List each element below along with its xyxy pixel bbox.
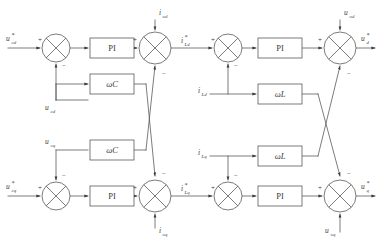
sign-sum8-plus: + bbox=[318, 184, 322, 192]
sign-sum2-plus: + bbox=[133, 36, 137, 44]
sign-sum5-plus: + bbox=[211, 36, 215, 44]
signal-u-od-base: u bbox=[344, 8, 348, 17]
signal-uout-d-base: u bbox=[361, 34, 365, 43]
sign-sum6-plus: + bbox=[318, 36, 322, 44]
wire-wl2-cross-to-sum6 bbox=[302, 66, 340, 156]
signal-vfb-q-sub: cq bbox=[51, 143, 56, 148]
signal-vref-q-star: * bbox=[12, 179, 15, 186]
signal-label-i-Ld: i Ld bbox=[198, 86, 207, 97]
signal-label-i-oq: i oq bbox=[159, 226, 168, 237]
block-pi-3[interactable]: PI bbox=[258, 38, 302, 58]
sign-sum7-plus: + bbox=[211, 184, 215, 192]
wire-vfbq-to-sum3 bbox=[56, 150, 88, 180]
signal-u-oq-base: u bbox=[325, 226, 329, 235]
summing-junction-1[interactable] bbox=[42, 34, 70, 62]
signal-vfb-d-sub: cd bbox=[51, 109, 56, 114]
signal-label-vfb-d: u cd bbox=[45, 103, 56, 114]
signal-uout-d-star: * bbox=[367, 31, 370, 38]
wire-wc2-cross-to-sum2 bbox=[134, 66, 155, 150]
wire-iLd-to-sum5 bbox=[210, 64, 256, 94]
signal-uout-q-sub: q bbox=[367, 188, 370, 193]
block-omega-c-1-label: ωC bbox=[106, 79, 118, 89]
signal-vfb-q-base: u bbox=[45, 137, 49, 146]
signal-u-od-sub: od bbox=[350, 14, 355, 19]
signal-uout-d-sub: d bbox=[367, 40, 370, 45]
signal-iref-Ld-sub: Ld bbox=[184, 42, 191, 47]
block-omega-l-2-label: ωL bbox=[275, 151, 286, 161]
diagram-canvas: PI ωC ωC PI PI ωL ωL PI bbox=[0, 0, 382, 249]
block-omega-c-1[interactable]: ωC bbox=[90, 74, 134, 94]
signal-uout-q-base: u bbox=[361, 182, 365, 191]
sign-sum1-minus: − bbox=[62, 62, 66, 70]
summing-junction-3[interactable] bbox=[42, 182, 70, 210]
signal-i-od-base: i bbox=[159, 8, 161, 17]
sign-sum1-plus: + bbox=[38, 36, 42, 44]
signal-i-Ld-sub: Ld bbox=[201, 92, 208, 97]
signal-i-Lq-sub: Lq bbox=[201, 154, 208, 159]
sign-sum8-minus: − bbox=[347, 170, 351, 178]
signal-i-oq-sub: oq bbox=[163, 232, 168, 237]
signal-label-u-oq: u oq bbox=[325, 226, 336, 237]
signal-iref-Lq-sub: Lq bbox=[184, 190, 191, 195]
signal-iref-Lq-base: i bbox=[181, 184, 183, 193]
block-omega-l-2[interactable]: ωL bbox=[258, 146, 302, 166]
signal-label-iref-Lq: i * Lq bbox=[181, 181, 190, 195]
summing-junction-7[interactable] bbox=[214, 182, 242, 210]
signal-i-od-sub: od bbox=[163, 14, 168, 19]
signal-vref-d-star: * bbox=[12, 31, 15, 38]
signal-label-vfb-q: u cq bbox=[45, 137, 56, 148]
signal-vref-q-base: u bbox=[6, 182, 10, 191]
signal-label-iref-Ld: i * Ld bbox=[181, 33, 190, 47]
signal-iref-Ld-star: * bbox=[185, 33, 188, 40]
block-omega-c-2[interactable]: ωC bbox=[90, 140, 134, 160]
block-pi-2[interactable]: PI bbox=[90, 186, 134, 206]
wire-vfbd-to-wc1 bbox=[56, 84, 88, 100]
block-omega-c-2-label: ωC bbox=[106, 145, 118, 155]
block-pi-2-label: PI bbox=[108, 191, 116, 201]
signal-label-vref-q: u * cq bbox=[6, 179, 17, 193]
summing-junction-8[interactable] bbox=[324, 180, 356, 212]
wire-wl1-cross-to-sum8 bbox=[302, 94, 340, 176]
signal-label-i-od: i od bbox=[159, 8, 168, 19]
signal-iref-Ld-base: i bbox=[181, 36, 183, 45]
summing-junction-6[interactable] bbox=[324, 32, 356, 64]
summing-junction-2[interactable] bbox=[139, 32, 171, 64]
signal-vfb-d-base: u bbox=[45, 103, 49, 112]
signal-uout-q-star: * bbox=[367, 179, 370, 186]
block-omega-l-1-label: ωL bbox=[275, 89, 286, 99]
sign-sum6-minus: − bbox=[347, 70, 351, 78]
signal-vref-d-base: u bbox=[6, 34, 10, 43]
signal-label-uout-d: u * d bbox=[361, 31, 370, 45]
summing-junction-5[interactable] bbox=[214, 34, 242, 62]
sign-sum3-plus: + bbox=[38, 184, 42, 192]
block-pi-4-label: PI bbox=[276, 191, 284, 201]
block-pi-4[interactable]: PI bbox=[258, 186, 302, 206]
sign-sum3-minus: − bbox=[62, 172, 66, 180]
block-pi-1[interactable]: PI bbox=[90, 38, 134, 58]
sign-sum4-plus: + bbox=[133, 184, 137, 192]
block-pi-3-label: PI bbox=[276, 43, 284, 53]
signal-label-i-Lq: i Lq bbox=[198, 148, 207, 159]
signal-vref-q-sub: cq bbox=[12, 188, 17, 193]
signal-label-uout-q: u * q bbox=[361, 179, 370, 193]
block-pi-1-label: PI bbox=[108, 43, 116, 53]
wire-iLq-to-sum7 bbox=[210, 156, 256, 180]
signal-iref-Lq-star: * bbox=[185, 181, 188, 188]
control-block-diagram: PI ωC ωC PI PI ωL ωL PI bbox=[0, 0, 382, 249]
sign-sum2-minus: − bbox=[162, 70, 166, 78]
sign-sum7-minus: − bbox=[234, 172, 238, 180]
wire-vfbd-to-sum1 bbox=[56, 64, 88, 100]
signal-label-vref-d: u * cd bbox=[6, 31, 17, 45]
signal-i-oq-base: i bbox=[159, 226, 161, 235]
sign-sum5-minus: − bbox=[234, 62, 238, 70]
signal-u-oq-sub: oq bbox=[331, 232, 336, 237]
signal-i-Lq-base: i bbox=[198, 148, 200, 157]
signal-label-u-od: u od bbox=[344, 8, 355, 19]
summing-junction-4[interactable] bbox=[139, 180, 171, 212]
signal-vref-d-sub: cd bbox=[12, 40, 17, 45]
signal-i-Ld-base: i bbox=[198, 86, 200, 95]
block-omega-l-1[interactable]: ωL bbox=[258, 84, 302, 104]
sign-sum4-minus: − bbox=[162, 170, 166, 178]
